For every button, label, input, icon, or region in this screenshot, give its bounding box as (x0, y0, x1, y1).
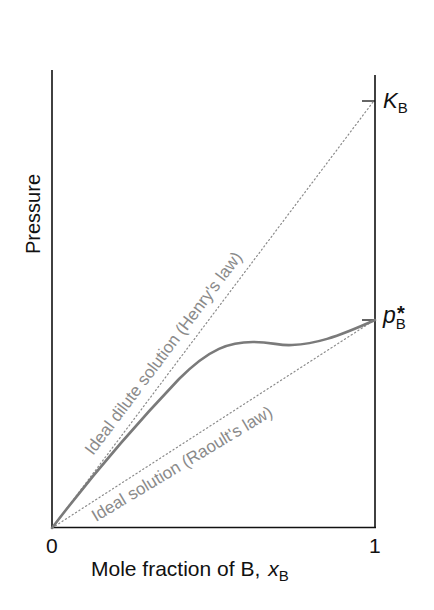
kb-label-sub: B (398, 99, 408, 116)
pb-label-main: p (382, 302, 396, 328)
x-axis-label: Mole fraction of B,xB (91, 557, 289, 584)
kb-label: KB (383, 88, 408, 116)
henry-law-label: Ideal dilute solution (Henry's law) (81, 248, 246, 458)
x-tick-0: 0 (46, 534, 58, 557)
y-axis-label: Pressure (22, 174, 44, 254)
kb-label-main: K (383, 88, 399, 113)
x-axis-label-sub: B (279, 567, 289, 584)
chart: Ideal dilute solution (Henry's law) Idea… (0, 0, 434, 610)
henry-law-line (52, 102, 373, 528)
x-axis-label-main: Mole fraction of B, (91, 557, 260, 580)
x-tick-1: 1 (369, 534, 381, 557)
pb-label-star: * (397, 302, 405, 324)
